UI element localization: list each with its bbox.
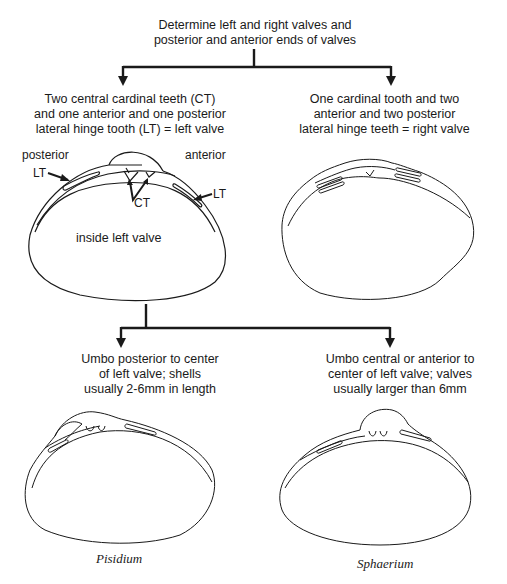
label-posterior: posterior [22, 149, 69, 162]
diagram-drawing [0, 0, 507, 584]
sphaerium-criterion: Umbo central or anterior to center of le… [300, 352, 500, 397]
sphaerium-drawing [280, 409, 471, 545]
species-sphaerium: Sphaerium [357, 556, 413, 572]
label-lt-anterior: LT [213, 188, 226, 201]
root-question: Determine left and right valves and post… [130, 18, 380, 48]
label-ct: CT [134, 197, 150, 210]
arrow-down-icon [386, 76, 396, 86]
left-valve-drawing [29, 152, 226, 300]
arrow-down-icon [385, 338, 395, 348]
arrow-down-icon [116, 338, 126, 348]
species-pisidium: Pisidium [96, 551, 142, 567]
arrow-icon [60, 174, 70, 181]
connector-root [123, 49, 391, 76]
pisidium-criterion: Umbo posterior to center of left valve; … [40, 352, 260, 397]
label-anterior: anterior [185, 149, 226, 162]
arrow-down-icon [118, 76, 128, 86]
right-valve-criterion: One cardinal tooth and two anterior and … [262, 92, 507, 137]
connector-left-valve [121, 304, 390, 338]
pisidium-drawing [25, 412, 214, 543]
label-lt-posterior: LT [33, 167, 46, 180]
left-valve-criterion: Two central cardinal teeth (CT) and one … [6, 92, 254, 137]
right-valve-drawing [282, 159, 474, 299]
label-inside-left-valve: inside left valve [76, 232, 161, 245]
